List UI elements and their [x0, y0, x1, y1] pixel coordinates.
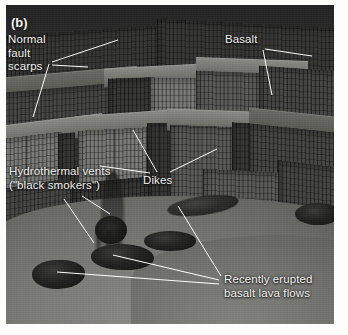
label-basalt: Basalt	[225, 33, 258, 47]
figure-root: (b) Normal fault scarps Basalt Hydrother…	[0, 0, 348, 335]
lava-flow-blob-mid-right	[144, 231, 196, 250]
lava-flow-blob-mid	[91, 244, 153, 270]
panel-letter: (b)	[11, 15, 28, 30]
label-normal-fault-scarps: Normal fault scarps	[8, 33, 46, 74]
figure-image-frame: (b) Normal fault scarps Basalt Hydrother…	[6, 5, 334, 324]
label-recently-erupted-basalt-lava-flows: Recently erupted basalt lava flows	[224, 273, 313, 300]
label-hydrothermal-vents: Hydrothermal vents ("black smokers")	[9, 165, 111, 192]
label-dikes: Dikes	[143, 174, 172, 188]
